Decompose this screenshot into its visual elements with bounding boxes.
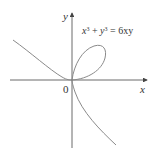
- folium-diagram: y x 0 x3 + y3 = 6xy: [0, 0, 157, 155]
- eq-rhs: = 6xy: [108, 25, 134, 36]
- curve-loop: [72, 45, 106, 80]
- curve-left-branch: [13, 40, 72, 80]
- x-axis-label: x: [139, 83, 145, 95]
- eq-plus: +: [89, 25, 100, 36]
- equation-label: x3 + y3 = 6xy: [81, 25, 133, 36]
- curve-lower-branch: [72, 80, 116, 145]
- y-axis-label: y: [62, 10, 68, 22]
- origin-label: 0: [63, 83, 69, 95]
